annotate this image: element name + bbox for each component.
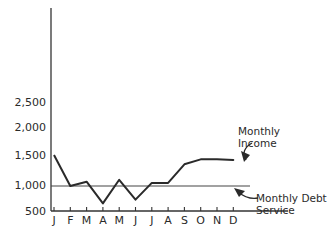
x-tick-label: D xyxy=(227,215,239,227)
x-tick-label: M xyxy=(113,215,125,227)
y-tick-2500: 2,500 xyxy=(0,97,46,109)
debt-annotation-line1: Monthly Debt xyxy=(256,192,327,204)
x-tick-label: J xyxy=(146,215,158,227)
x-tick-label: M xyxy=(81,215,93,227)
y-tick-1500: 1,500 xyxy=(0,150,46,162)
y-tick-1000: 1,000 xyxy=(0,180,46,192)
debt-annotation: Monthly Debt Service xyxy=(256,192,327,216)
income-arrowhead-icon xyxy=(241,151,250,162)
income-annotation-line2: Income xyxy=(238,137,280,149)
y-tick-500: 500 xyxy=(0,206,46,218)
income-annotation-line1: Monthly xyxy=(238,125,280,137)
x-tick-label: O xyxy=(195,215,207,227)
debt-annotation-line2: Service xyxy=(256,204,327,216)
x-tick-label: N xyxy=(211,215,223,227)
x-tick-label: J xyxy=(48,215,60,227)
x-tick-label: A xyxy=(97,215,109,227)
x-tick-label: J xyxy=(130,215,142,227)
x-tick-label: S xyxy=(178,215,190,227)
income-annotation: Monthly Income xyxy=(238,125,280,149)
income-line xyxy=(54,155,233,203)
x-tick-label: F xyxy=(64,215,76,227)
y-tick-2000: 2,000 xyxy=(0,122,46,134)
x-tick-label: A xyxy=(162,215,174,227)
